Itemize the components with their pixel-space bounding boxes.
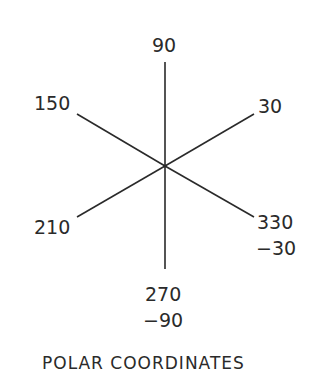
- label-30: 30: [258, 97, 282, 116]
- ray-330: [165, 166, 254, 217]
- label-270: 270: [145, 285, 181, 304]
- label-neg90: −90: [143, 311, 183, 330]
- diagram-title: POLAR COORDINATES: [42, 353, 245, 373]
- ray-210: [77, 166, 165, 217]
- origin-point: [164, 165, 167, 168]
- ray-150: [77, 114, 165, 166]
- label-330: 330: [257, 213, 293, 232]
- label-neg30: −30: [256, 239, 296, 258]
- ray-30: [165, 114, 254, 166]
- label-210: 210: [34, 218, 70, 237]
- label-150: 150: [34, 94, 70, 113]
- label-90: 90: [152, 36, 176, 55]
